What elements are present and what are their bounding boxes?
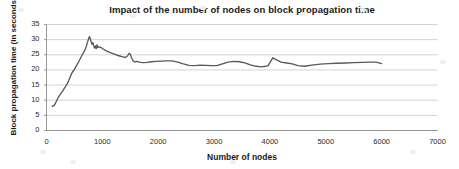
- y-tick-label: 5: [20, 111, 40, 119]
- axis-lines: [44, 25, 438, 131]
- data-series-group: [52, 37, 382, 107]
- y-tick-label: 15: [20, 81, 40, 89]
- y-tick-label: 30: [20, 35, 40, 43]
- x-tick-label: 1000: [82, 138, 122, 146]
- series-line: [52, 37, 382, 107]
- x-tick-label: 4000: [250, 138, 290, 146]
- y-tick-label: 20: [20, 65, 40, 73]
- x-tick-label: 6000: [362, 138, 402, 146]
- y-tick-label: 10: [20, 96, 40, 104]
- y-tick-label: 25: [20, 50, 40, 58]
- x-tick-label: 0: [27, 138, 67, 146]
- x-tick-label: 2000: [138, 138, 178, 146]
- y-tick-label: 0: [20, 126, 40, 134]
- x-tick-label: 5000: [306, 138, 346, 146]
- gridlines: [47, 25, 438, 131]
- y-tick-label: 35: [20, 20, 40, 28]
- x-tick-label: 3000: [194, 138, 234, 146]
- chart-container: Impact of the number of nodes on block p…: [0, 0, 459, 169]
- x-tick-label: 7000: [418, 138, 458, 146]
